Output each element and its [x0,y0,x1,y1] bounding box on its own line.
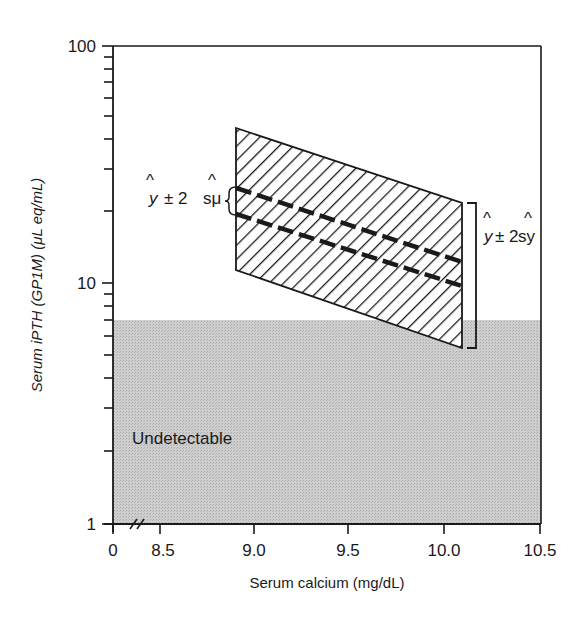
annotation-y-hat-2s-y: ^ y ± 2 ^ sy [483,209,536,246]
x-tick-label-9.0: 9.0 [242,541,266,560]
svg-text:^: ^ [524,209,532,228]
undetectable-region [113,320,541,524]
x-tick-label-8.5: 8.5 [151,541,175,560]
svg-text:y: y [148,189,159,208]
x-tick-label-9.5: 9.5 [336,541,360,560]
x-axis-ticks [113,524,540,534]
prediction-band [236,128,462,348]
svg-text:± 2: ± 2 [495,227,519,246]
y-tick-label-10: 10 [77,274,96,293]
svg-text:y: y [483,227,494,246]
left-brace-icon [225,187,236,215]
x-axis-title: Serum calcium (mg/dL) [249,574,404,591]
svg-text:^: ^ [146,171,154,190]
svg-text:^: ^ [483,209,491,228]
y-axis-title: Serum iPTH (GP1M) (μL eq/mL) [28,178,45,393]
x-tick-label-10.5: 10.5 [523,541,556,560]
annotation-y-hat-2s-mu: ^ y ± 2 ^ sμ [146,171,221,208]
undetectable-label: Undetectable [132,429,232,448]
y-tick-label-100: 100 [68,37,96,56]
y-tick-label-1: 1 [87,515,96,534]
x-tick-label-0: 0 [108,541,117,560]
svg-text:± 2: ± 2 [164,189,188,208]
y-axis-ticks [102,46,113,524]
svg-text:^: ^ [208,171,216,190]
svg-text:sy: sy [518,227,536,246]
svg-text:sμ: sμ [203,189,221,208]
x-tick-label-10.0: 10.0 [427,541,460,560]
chart-canvas: ^ y ± 2 ^ sμ ^ y ± 2 ^ sy Undetectable 1… [0,0,588,619]
